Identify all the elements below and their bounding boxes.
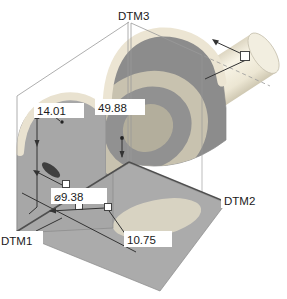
- dimension-label-height[interactable]: 14.01: [37, 105, 66, 117]
- drag-handle[interactable]: [241, 52, 250, 61]
- cad-viewport: 14.01 49.88 ⌀9.38 10.75 DTM3: [0, 0, 287, 299]
- attach-dot: [60, 120, 63, 123]
- drag-handle[interactable]: [63, 181, 70, 188]
- dimension-label-width[interactable]: 49.88: [98, 102, 127, 114]
- dimension-label-hole-diameter[interactable]: ⌀9.38: [54, 191, 83, 203]
- datum-label-dtm1[interactable]: DTM1: [1, 235, 32, 247]
- model-scene: 14.01 49.88 ⌀9.38 10.75 DTM3: [0, 0, 287, 299]
- dimension-label-offset[interactable]: 10.75: [127, 234, 156, 246]
- datum-label-dtm3[interactable]: DTM3: [118, 10, 149, 22]
- datum-label-dtm2[interactable]: DTM2: [224, 195, 255, 207]
- drag-handle[interactable]: [105, 204, 112, 211]
